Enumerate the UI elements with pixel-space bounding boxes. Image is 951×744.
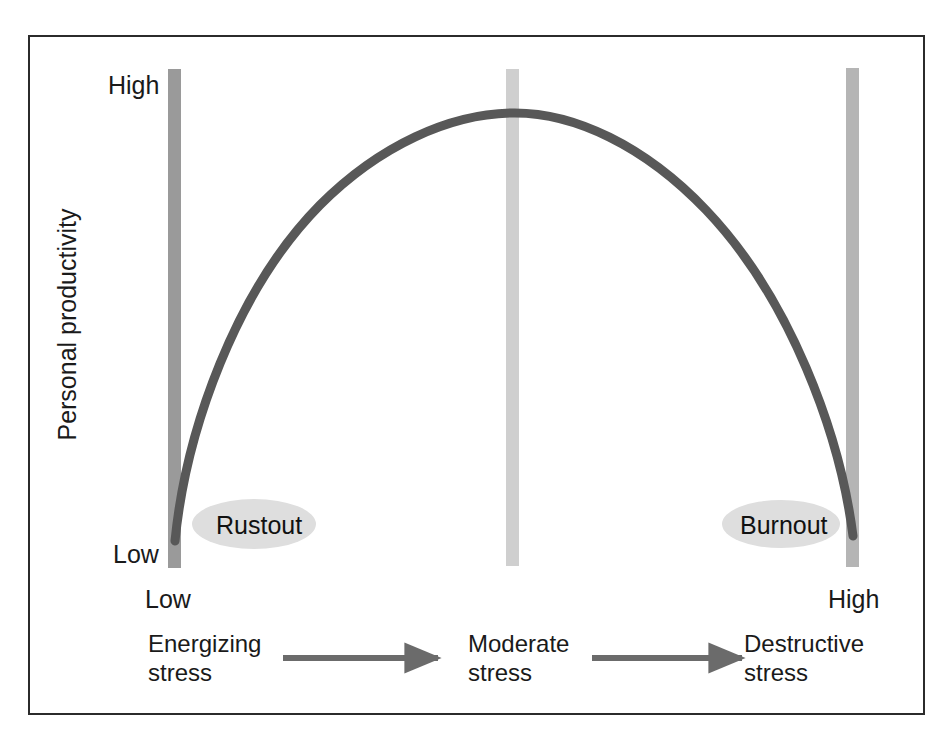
stage-label-destructive-line2: stress bbox=[744, 658, 864, 687]
stage-label-moderate-line2: stress bbox=[468, 658, 569, 687]
burnout-label: Burnout bbox=[740, 511, 828, 540]
stage-label-destructive: Destructive stress bbox=[744, 629, 864, 688]
stage-label-moderate-line1: Moderate bbox=[468, 629, 569, 658]
y-axis-low-label: Low bbox=[113, 541, 159, 567]
stage-label-energizing-line2: stress bbox=[148, 658, 261, 687]
x-axis-low-label: Low bbox=[145, 586, 191, 612]
vertical-bar-moderate bbox=[506, 69, 519, 566]
stress-productivity-figure: Personal productivity High Low Low High … bbox=[0, 0, 951, 744]
stage-label-energizing-line1: Energizing bbox=[148, 629, 261, 658]
stage-label-destructive-line1: Destructive bbox=[744, 629, 864, 658]
stage-label-moderate: Moderate stress bbox=[468, 629, 569, 688]
y-axis-title: Personal productivity bbox=[53, 195, 82, 455]
rustout-label: Rustout bbox=[216, 511, 302, 540]
y-axis-high-label: High bbox=[108, 72, 159, 98]
stage-label-energizing: Energizing stress bbox=[148, 629, 261, 688]
x-axis-high-label: High bbox=[828, 586, 879, 612]
